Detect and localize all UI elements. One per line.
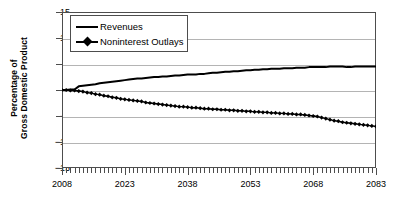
series-marker [139, 99, 143, 103]
series-marker [110, 95, 114, 99]
x-axis-tick [62, 168, 63, 175]
x-axis-tick [83, 168, 84, 173]
series-marker [85, 91, 89, 95]
x-axis-tick [192, 168, 193, 173]
x-axis-tick [242, 168, 243, 173]
x-axis-tick-label: 2083 [351, 180, 400, 189]
x-axis-tick [171, 168, 172, 173]
x-axis-tick [183, 168, 184, 173]
series-marker [319, 115, 323, 119]
series-marker [303, 113, 307, 117]
x-axis-tick [288, 168, 289, 173]
series-marker [202, 107, 206, 111]
series-marker [265, 110, 269, 114]
x-axis-tick [259, 168, 260, 173]
x-axis-tick-label: 2008 [37, 180, 87, 189]
series-marker [294, 112, 298, 116]
x-axis-tick [330, 168, 331, 173]
series-marker [77, 89, 81, 93]
series-marker [328, 118, 332, 122]
x-axis-tick [317, 168, 318, 173]
series-marker [148, 101, 152, 105]
x-axis-tick [70, 168, 71, 173]
series-marker [206, 107, 210, 111]
legend-label-revenues: Revenues [98, 22, 143, 32]
series-marker [315, 114, 319, 118]
series-marker [102, 94, 106, 98]
series-marker [194, 106, 198, 110]
series-marker [248, 109, 252, 113]
x-axis-minor-ticks [62, 168, 376, 175]
series-revenues [62, 67, 376, 90]
x-axis-tick [209, 168, 210, 173]
x-axis-tick [217, 168, 218, 173]
series-marker [215, 107, 219, 111]
x-axis-tick [100, 168, 101, 173]
x-axis-tick [296, 168, 297, 173]
series-marker [181, 105, 185, 109]
series-marker [177, 105, 181, 109]
y-axis-title-line-2: Gross Domestic Product [19, 37, 30, 139]
series-marker [282, 111, 286, 115]
x-axis-tick [343, 168, 344, 173]
series-marker [135, 99, 139, 103]
x-axis-tick [363, 168, 364, 173]
x-axis-tick [150, 168, 151, 173]
series-marker [186, 105, 190, 109]
x-axis-tick [322, 168, 323, 173]
x-axis-tick [129, 168, 130, 173]
series-marker [374, 124, 376, 128]
x-axis-tick [162, 168, 163, 173]
x-axis-tick [66, 168, 67, 173]
x-axis-tick [372, 168, 373, 173]
x-axis-tick [137, 168, 138, 173]
series-marker [240, 109, 244, 113]
x-axis-tick [255, 168, 256, 173]
x-axis-tick [250, 168, 251, 175]
series-marker [173, 104, 177, 108]
series-marker [286, 112, 290, 116]
series-marker [211, 107, 215, 111]
series-marker [160, 102, 164, 106]
x-axis-tick [121, 168, 122, 173]
x-axis-tick-label: 2053 [225, 180, 275, 189]
series-marker [332, 119, 336, 123]
legend-diamond-line-icon [76, 36, 98, 48]
x-axis-tick [87, 168, 88, 173]
x-axis-tick [112, 168, 113, 173]
x-axis-tick [133, 168, 134, 173]
series-marker [336, 119, 340, 123]
series-marker [127, 98, 131, 102]
series-marker [232, 108, 236, 112]
x-axis-tick [313, 168, 314, 175]
x-axis-tick [79, 168, 80, 173]
series-marker [257, 110, 261, 114]
series-marker [244, 109, 248, 113]
x-axis-tick [280, 168, 281, 173]
x-axis-tick [158, 168, 159, 173]
x-axis-tick [108, 168, 109, 173]
x-axis-tick [267, 168, 268, 173]
x-axis-tick [125, 168, 126, 175]
x-axis-tick [301, 168, 302, 173]
x-axis-tick [263, 168, 264, 173]
series-marker [223, 108, 227, 112]
series-marker [370, 124, 374, 128]
x-axis-tick [246, 168, 247, 173]
series-marker [340, 120, 344, 124]
series-marker [152, 101, 156, 105]
x-axis-tick [305, 168, 306, 173]
x-axis-tick [200, 168, 201, 173]
series-marker [190, 106, 194, 110]
x-axis-tick [196, 168, 197, 173]
x-axis-tick [75, 168, 76, 173]
series-marker [227, 108, 231, 112]
series-marker [261, 110, 265, 114]
x-axis-tick [229, 168, 230, 173]
series-marker [198, 106, 202, 110]
x-axis-tick [351, 168, 352, 173]
x-axis-tick [104, 168, 105, 173]
series-line [62, 67, 376, 90]
x-axis-tick [188, 168, 189, 175]
x-axis-tick [368, 168, 369, 173]
